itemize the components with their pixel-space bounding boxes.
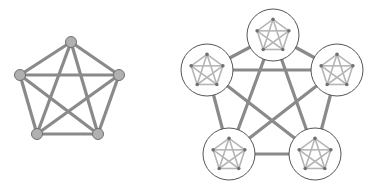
inner-node (313, 137, 317, 141)
inner-node (205, 53, 209, 57)
inner-node (255, 29, 259, 33)
cluster-node (203, 128, 255, 180)
inner-node (211, 148, 215, 152)
inner-node (319, 64, 323, 68)
inner-node (323, 167, 327, 171)
graph-edge (20, 75, 37, 134)
inner-node (345, 83, 349, 87)
cluster-circle (289, 128, 341, 180)
inner-node (335, 53, 339, 57)
hierarchical-k5-graph (181, 9, 363, 180)
cluster-node (311, 44, 363, 96)
inner-node (325, 83, 329, 87)
inner-node (261, 48, 265, 52)
inner-node (287, 29, 291, 33)
inner-node (243, 148, 247, 152)
inner-node (329, 148, 333, 152)
cluster-node (181, 44, 233, 96)
inner-node (237, 167, 241, 171)
graph-edge (20, 75, 98, 134)
inner-node (215, 83, 219, 87)
cluster-node (247, 9, 299, 61)
graph-node (15, 70, 26, 81)
graph-node (32, 129, 43, 140)
cluster-circle (311, 44, 363, 96)
graph-edge (71, 42, 98, 134)
inner-node (351, 64, 355, 68)
cluster-circle (181, 44, 233, 96)
graph-node (114, 70, 125, 81)
inner-node (227, 137, 231, 141)
cluster-circle (247, 9, 299, 61)
k5-graph (15, 37, 125, 140)
inner-node (297, 148, 301, 152)
graph-node (93, 129, 104, 140)
inner-node (189, 64, 193, 68)
graph-node (66, 37, 77, 48)
inner-node (281, 48, 285, 52)
cluster-node (289, 128, 341, 180)
inner-node (221, 64, 225, 68)
inner-node (195, 83, 199, 87)
cluster-circle (203, 128, 255, 180)
inner-node (217, 167, 221, 171)
inner-node (271, 18, 275, 22)
diagram-canvas (0, 0, 373, 193)
inner-node (303, 167, 307, 171)
